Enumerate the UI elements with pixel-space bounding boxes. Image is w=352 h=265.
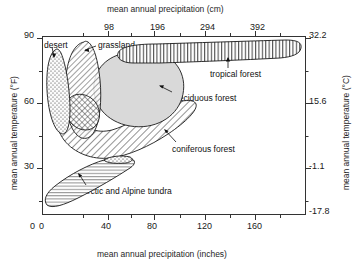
region-tropical-forest <box>118 40 302 63</box>
region-desert <box>47 49 70 134</box>
biome-diagram-figure: mean annual precipitation (cm) mean annu… <box>0 0 352 265</box>
region-arctic-alpine-tundra <box>45 157 134 207</box>
plot-canvas <box>0 0 352 265</box>
